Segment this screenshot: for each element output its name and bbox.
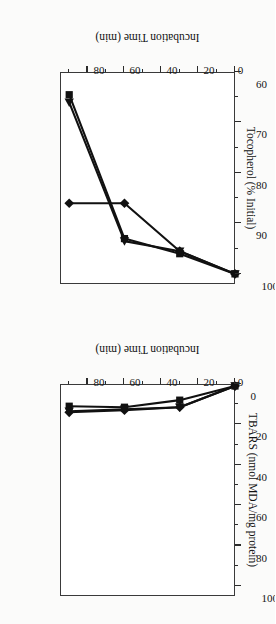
y-tick-label: 60	[256, 78, 267, 90]
x-tick-minor	[105, 381, 106, 384]
x-tick-minor	[142, 381, 143, 384]
x-tick-major	[197, 378, 198, 384]
tocopherol-panel: 02040608060708090100 Incubation Time (mi…	[0, 0, 275, 312]
y-tick-minor	[235, 444, 238, 445]
x-tick-label: 20	[204, 64, 215, 76]
tbars-y-axis-label: TBARS (nmol MDA/mg protein)	[247, 413, 259, 567]
y-tick-major	[235, 585, 241, 586]
x-tick-label: 60	[130, 376, 141, 388]
x-tick-major	[197, 66, 198, 72]
x-tick-label: 40	[167, 64, 178, 76]
x-tick-label: 80	[93, 64, 104, 76]
y-tick-label: 0	[251, 390, 257, 402]
y-tick-major	[235, 423, 241, 424]
tbars-x-axis-label: Incubation Time (min)	[95, 344, 199, 356]
y-tick-major	[235, 544, 241, 545]
x-tick-minor	[105, 69, 106, 72]
x-tick-major	[160, 378, 161, 384]
y-tick-major	[235, 172, 241, 173]
x-tick-label: 60	[130, 64, 141, 76]
tbars-panel: 020406080020406080100 Incubation Time (m…	[0, 312, 275, 624]
y-tick-minor	[235, 248, 238, 249]
x-tick-major	[86, 378, 87, 384]
x-tick-minor	[142, 69, 143, 72]
x-tick-label: 20	[204, 376, 215, 388]
y-tick-major	[235, 121, 241, 122]
x-tick-minor	[179, 69, 180, 72]
x-tick-major	[123, 66, 124, 72]
tocopherol-data-lines	[60, 72, 235, 284]
y-tick-label: 70	[256, 128, 267, 140]
y-tick-label: 80	[256, 179, 267, 191]
x-tick-minor	[68, 381, 69, 384]
figure-root: 02040608060708090100 Incubation Time (mi…	[0, 0, 275, 624]
tbars-panel-rotated: 020406080020406080100 Incubation Time (m…	[0, 312, 275, 624]
y-tick-minor	[235, 197, 238, 198]
x-tick-major	[160, 66, 161, 72]
tocopherol-x-axis-label: Incubation Time (min)	[95, 32, 199, 44]
x-tick-major	[86, 66, 87, 72]
y-tick-label: 100	[262, 592, 276, 604]
x-tick-minor	[216, 381, 217, 384]
y-tick-label: 100	[262, 280, 276, 292]
y-tick-minor	[235, 484, 238, 485]
y-tick-major	[235, 504, 241, 505]
y-tick-minor	[235, 147, 238, 148]
y-tick-minor	[235, 524, 238, 525]
y-tick-minor	[235, 565, 238, 566]
x-tick-major	[123, 378, 124, 384]
y-tick-major	[235, 273, 241, 274]
y-tick-major	[235, 464, 241, 465]
x-tick-label: 80	[93, 376, 104, 388]
y-tick-minor	[235, 403, 238, 404]
y-tick-major	[235, 71, 241, 72]
tocopherol-y-axis-label: Tocopherol (% Initial)	[245, 127, 257, 230]
x-tick-minor	[68, 69, 69, 72]
tbars-data-lines	[60, 384, 235, 596]
tocopherol-panel-rotated: 02040608060708090100 Incubation Time (mi…	[0, 0, 275, 312]
x-tick-minor	[216, 69, 217, 72]
x-tick-label: 40	[167, 376, 178, 388]
y-tick-major	[235, 383, 241, 384]
y-tick-label: 90	[256, 229, 267, 241]
y-tick-minor	[235, 96, 238, 97]
x-tick-minor	[179, 381, 180, 384]
y-tick-major	[235, 222, 241, 223]
